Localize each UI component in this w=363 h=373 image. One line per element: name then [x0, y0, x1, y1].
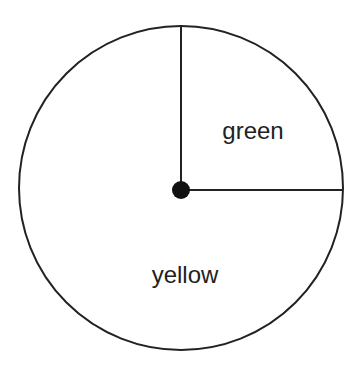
- center-pivot: [172, 181, 190, 199]
- section-label-green: green: [222, 117, 283, 144]
- section-label-yellow: yellow: [152, 261, 219, 288]
- spinner-diagram: green yellow: [0, 0, 363, 373]
